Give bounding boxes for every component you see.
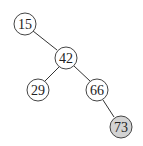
node-label: 66: [90, 83, 104, 98]
edge-42-29: [45, 67, 59, 81]
tree-node-15: 15: [14, 13, 36, 35]
node-label: 73: [114, 120, 128, 135]
node-label: 29: [31, 83, 45, 98]
tree-node-66: 66: [86, 79, 108, 101]
edge-15-42: [33, 31, 57, 50]
tree-node-42: 42: [55, 47, 77, 69]
edge-42-66: [74, 66, 90, 81]
node-label: 42: [59, 51, 73, 66]
tree-node-29: 29: [27, 79, 49, 101]
binary-tree-diagram: 15 42 29 66 73: [0, 0, 143, 146]
node-label: 15: [18, 17, 32, 32]
edge-66-73: [103, 100, 114, 117]
tree-node-73-highlighted: 73: [110, 116, 132, 138]
